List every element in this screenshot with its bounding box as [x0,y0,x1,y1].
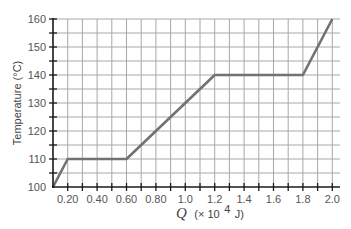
y-tick-label: 150 [28,41,46,53]
x-tick-label: 1.4 [236,193,251,205]
temperature-heat-chart: 0.200.400.600.801.01.21.41.61.82.0 10011… [0,0,351,229]
x-tick-label: 2.0 [325,193,340,205]
y-tick-label: 100 [28,181,46,193]
x-axis-exponent: 4 [224,203,230,215]
y-tick-label: 110 [28,153,46,165]
y-axis-title: Temperature (°C) [11,61,23,145]
x-tick-label: 0.60 [116,193,137,205]
x-tick-label: 1.6 [266,193,281,205]
y-tick-label: 120 [28,125,46,137]
grid-lines [53,19,340,187]
x-tick-label: 0.80 [145,193,166,205]
x-tick-label: 0.20 [57,193,78,205]
x-axis-unit-tail: J) [235,208,244,220]
x-axis-symbol: Q [176,205,187,221]
x-axis-unit: (× 10 [194,208,219,220]
y-tick-label: 140 [28,69,46,81]
y-tick-label: 160 [28,13,46,25]
x-tick-label: 1.8 [295,193,310,205]
x-tick-label: 0.40 [86,193,107,205]
y-tick-label: 130 [28,97,46,109]
